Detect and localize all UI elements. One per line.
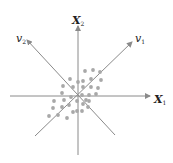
data-point: [86, 105, 90, 109]
axis-label-v1: v1: [135, 29, 145, 45]
data-point: [83, 69, 87, 73]
data-point: [69, 95, 73, 99]
data-point: [80, 93, 84, 97]
data-point: [65, 116, 69, 120]
data-point: [99, 78, 103, 82]
data-point: [80, 109, 84, 113]
axis-v2: [27, 40, 115, 135]
data-point: [67, 103, 71, 107]
data-point: [87, 93, 91, 97]
axes-and-points: [0, 0, 173, 163]
data-point: [91, 68, 95, 72]
data-point: [51, 106, 55, 110]
data-point: [75, 99, 79, 103]
data-point: [89, 77, 93, 81]
axis-v1: [35, 42, 132, 136]
data-point: [81, 102, 85, 106]
data-point: [52, 99, 56, 103]
data-point: [61, 84, 65, 88]
data-point: [71, 85, 75, 89]
data-point: [81, 79, 85, 83]
data-point: [75, 109, 79, 113]
data-point: [47, 114, 51, 118]
data-point: [96, 86, 100, 90]
data-point: [71, 110, 75, 114]
data-point: [94, 92, 98, 96]
data-point: [60, 105, 64, 109]
data-point: [60, 91, 64, 95]
data-point: [98, 70, 102, 74]
axes-group: [10, 26, 150, 155]
axis-label-x2: X2: [72, 11, 84, 27]
data-point: [68, 77, 72, 81]
data-point: [56, 113, 60, 117]
pca-diagram: X2 X1 v1 v2: [0, 0, 173, 163]
axis-label-v2: v2: [16, 29, 26, 45]
data-point: [81, 85, 85, 89]
data-point: [62, 98, 66, 102]
data-point: [76, 80, 80, 84]
axis-label-x1: X1: [154, 90, 166, 106]
data-point: [89, 85, 93, 89]
data-point: [87, 99, 91, 103]
data-points-group: [47, 68, 103, 120]
